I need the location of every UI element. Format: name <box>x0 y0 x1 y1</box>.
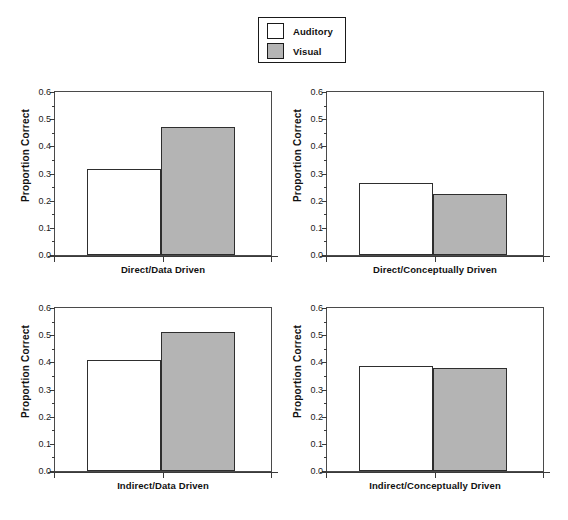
y-tick-label: 0.3 <box>310 169 323 179</box>
y-tick-label: 0.3 <box>310 385 323 395</box>
y-axis-title: Proportion Correct <box>292 312 303 432</box>
legend-label-visual: Visual <box>293 46 321 57</box>
y-tick-label: 0.3 <box>38 385 51 395</box>
plot-frame: 0.00.10.20.30.40.50.6 <box>54 307 272 472</box>
x-tick-right <box>271 256 272 262</box>
bar-auditory <box>359 366 433 471</box>
legend-swatch-auditory-icon <box>267 23 284 39</box>
legend-swatch-visual-icon <box>267 43 284 59</box>
y-tick-label: 0.4 <box>38 357 51 367</box>
y-tick-label: 0.4 <box>310 357 323 367</box>
figure-root: Auditory Visual Proportion Correct 0.00.… <box>0 0 568 520</box>
y-tick-label: 0.5 <box>310 114 323 124</box>
y-tick-label: 0.3 <box>38 169 51 179</box>
x-tick-mid <box>163 256 164 262</box>
y-tick-label: 0.2 <box>310 196 323 206</box>
y-minor-tick-mark <box>52 160 55 161</box>
y-tick-label: 0.5 <box>310 330 323 340</box>
y-axis-title: Proportion Correct <box>20 96 31 216</box>
y-axis-title: Proportion Correct <box>20 312 31 432</box>
y-minor-tick-mark <box>52 430 55 431</box>
y-minor-tick-mark <box>324 160 327 161</box>
y-minor-tick-mark <box>324 322 327 323</box>
y-tick-label: 0.2 <box>310 412 323 422</box>
x-tick-right <box>543 472 544 478</box>
y-tick-label: 0.0 <box>38 466 51 476</box>
x-tick-left <box>54 256 55 262</box>
y-tick-label: 0.0 <box>38 250 51 260</box>
bar-visual <box>433 368 507 471</box>
x-tick-left <box>326 256 327 262</box>
bar-auditory <box>359 183 433 255</box>
bar-auditory <box>87 169 161 255</box>
panel-label: Indirect/Conceptually Driven <box>326 480 544 491</box>
y-minor-tick-mark <box>324 214 327 215</box>
y-minor-tick-mark <box>52 349 55 350</box>
x-tick-mid <box>163 472 164 478</box>
x-tick-mid <box>435 472 436 478</box>
legend-item-visual: Visual <box>267 42 321 60</box>
bar-auditory <box>87 360 161 471</box>
panel-label: Direct/Data Driven <box>54 264 272 275</box>
y-minor-tick-mark <box>52 106 55 107</box>
x-tick-mid <box>435 256 436 262</box>
y-tick-label: 0.1 <box>310 223 323 233</box>
y-minor-tick-mark <box>52 376 55 377</box>
y-tick-label: 0.2 <box>38 412 51 422</box>
y-tick-label: 0.4 <box>38 141 51 151</box>
y-minor-tick-mark <box>324 430 327 431</box>
y-minor-tick-mark <box>52 133 55 134</box>
x-tick-left <box>54 472 55 478</box>
y-minor-tick-mark <box>324 241 327 242</box>
y-tick-label: 0.1 <box>38 223 51 233</box>
legend: Auditory Visual <box>258 17 346 63</box>
y-tick-label: 0.1 <box>310 439 323 449</box>
y-minor-tick-mark <box>52 214 55 215</box>
y-minor-tick-mark <box>52 403 55 404</box>
y-tick-label: 0.6 <box>38 303 51 313</box>
plot-frame: 0.00.10.20.30.40.50.6 <box>326 307 544 472</box>
y-minor-tick-mark <box>52 322 55 323</box>
panel-direct-data-driven: Proportion Correct 0.00.10.20.30.40.50.6… <box>8 82 278 292</box>
y-tick-label: 0.6 <box>310 303 323 313</box>
y-tick-label: 0.4 <box>310 141 323 151</box>
panel-indirect-conceptually-driven: Proportion Correct 0.00.10.20.30.40.50.6… <box>280 298 550 508</box>
y-minor-tick-mark <box>52 241 55 242</box>
y-minor-tick-mark <box>324 403 327 404</box>
x-tick-left <box>326 472 327 478</box>
panel-label: Direct/Conceptually Driven <box>326 264 544 275</box>
y-minor-tick-mark <box>324 187 327 188</box>
bar-visual <box>161 332 235 471</box>
y-tick-label: 0.1 <box>38 439 51 449</box>
y-tick-label: 0.2 <box>38 196 51 206</box>
y-minor-tick-mark <box>324 376 327 377</box>
bar-visual <box>433 194 507 255</box>
y-minor-tick-mark <box>324 106 327 107</box>
y-minor-tick-mark <box>52 187 55 188</box>
y-tick-label: 0.6 <box>310 87 323 97</box>
y-minor-tick-mark <box>324 349 327 350</box>
y-tick-label: 0.6 <box>38 87 51 97</box>
y-tick-label: 0.0 <box>310 250 323 260</box>
y-tick-label: 0.0 <box>310 466 323 476</box>
panel-indirect-data-driven: Proportion Correct 0.00.10.20.30.40.50.6… <box>8 298 278 508</box>
y-axis-title: Proportion Correct <box>292 96 303 216</box>
y-tick-label: 0.5 <box>38 330 51 340</box>
y-tick-label: 0.5 <box>38 114 51 124</box>
y-minor-tick-mark <box>52 457 55 458</box>
legend-item-auditory: Auditory <box>267 22 333 40</box>
panel-label: Indirect/Data Driven <box>54 480 272 491</box>
x-tick-right <box>543 256 544 262</box>
y-minor-tick-mark <box>324 133 327 134</box>
panel-direct-conceptually-driven: Proportion Correct 0.00.10.20.30.40.50.6… <box>280 82 550 292</box>
y-minor-tick-mark <box>324 457 327 458</box>
x-tick-right <box>271 472 272 478</box>
plot-frame: 0.00.10.20.30.40.50.6 <box>54 91 272 256</box>
legend-label-auditory: Auditory <box>293 26 333 37</box>
plot-frame: 0.00.10.20.30.40.50.6 <box>326 91 544 256</box>
bar-visual <box>161 127 235 255</box>
